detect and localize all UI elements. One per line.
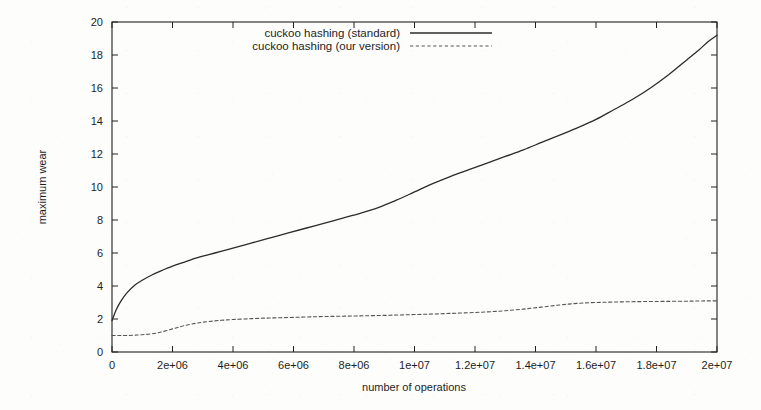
chart-legend: cuckoo hashing (standard)cuckoo hashing … (252, 27, 492, 52)
x-axis-title: number of operations (362, 381, 466, 393)
y-tick-label: 18 (91, 49, 103, 61)
x-tick-label: 2e+07 (702, 359, 733, 371)
figure-canvas: 02e+064e+066e+068e+061e+071.2e+071.4e+07… (0, 0, 761, 410)
y-tick-label: 16 (91, 82, 103, 94)
y-tick-label: 12 (91, 148, 103, 160)
y-axis-ticks (112, 22, 717, 352)
x-tick-label: 1.2e+07 (455, 359, 495, 371)
legend-label-1: cuckoo hashing (standard) (264, 27, 400, 39)
series-line-2 (112, 301, 717, 336)
y-tick-label: 10 (91, 181, 103, 193)
y-tick-label: 0 (97, 346, 103, 358)
y-tick-label: 2 (97, 313, 103, 325)
x-tick-label: 6e+06 (278, 359, 309, 371)
y-tick-label: 20 (91, 16, 103, 28)
x-tick-label: 1.4e+07 (515, 359, 555, 371)
legend-label-2: cuckoo hashing (our version) (252, 40, 400, 52)
y-tick-label: 4 (97, 280, 103, 292)
series-line-1 (112, 35, 717, 320)
data-series-layer (112, 35, 717, 335)
y-axis-tick-labels: 02468101214161820 (91, 16, 103, 358)
x-tick-label: 1e+07 (399, 359, 430, 371)
x-tick-label: 8e+06 (339, 359, 370, 371)
x-tick-label: 1.8e+07 (636, 359, 676, 371)
y-tick-label: 8 (97, 214, 103, 226)
chart-plot: 02e+064e+066e+068e+061e+071.2e+071.4e+07… (0, 0, 761, 410)
x-tick-label: 0 (109, 359, 115, 371)
x-axis-tick-labels: 02e+064e+066e+068e+061e+071.2e+071.4e+07… (109, 359, 733, 371)
y-tick-label: 14 (91, 115, 103, 127)
x-tick-label: 4e+06 (218, 359, 249, 371)
y-axis-title: maximum wear (36, 149, 48, 224)
plot-frame (112, 22, 717, 352)
x-tick-label: 2e+06 (157, 359, 188, 371)
x-axis-ticks (112, 22, 717, 352)
x-tick-label: 1.6e+07 (576, 359, 616, 371)
y-tick-label: 6 (97, 247, 103, 259)
